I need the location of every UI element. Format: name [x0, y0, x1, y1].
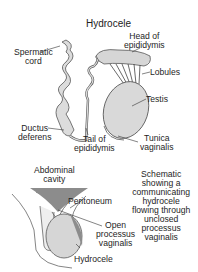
label-tunica-vaginalis: Tunica vaginalis	[140, 134, 173, 152]
label-testis: Testis	[146, 95, 168, 104]
spermatic-cord-shape	[56, 40, 74, 136]
ductus-deferens-shape	[70, 56, 98, 141]
schematic-caption: Schematic showing a communicating hydroc…	[132, 170, 190, 242]
epididymis-head-shape	[96, 50, 150, 66]
hydrocele-sac-shape	[46, 214, 82, 258]
label-lobules: Lobules	[150, 68, 180, 77]
label-tail-of-epididymis: Tail of epididymis	[74, 135, 115, 153]
label-peritoneum: Peritoneum	[68, 197, 112, 206]
label-head-of-epididymis: Head of epididymis	[124, 32, 165, 50]
label-ductus-deferens: Ductus deferens	[18, 124, 51, 142]
lobules-shape	[110, 64, 140, 84]
diagram-title: Hydrocele	[86, 18, 131, 29]
label-open-processus-vaginalis: Open processus vaginalis	[96, 221, 135, 248]
label-hydrocele: Hydrocele	[74, 255, 113, 264]
label-spermatic-cord: Spermatic cord	[14, 48, 53, 66]
label-abdominal-cavity: Abdominal cavity	[34, 166, 75, 184]
